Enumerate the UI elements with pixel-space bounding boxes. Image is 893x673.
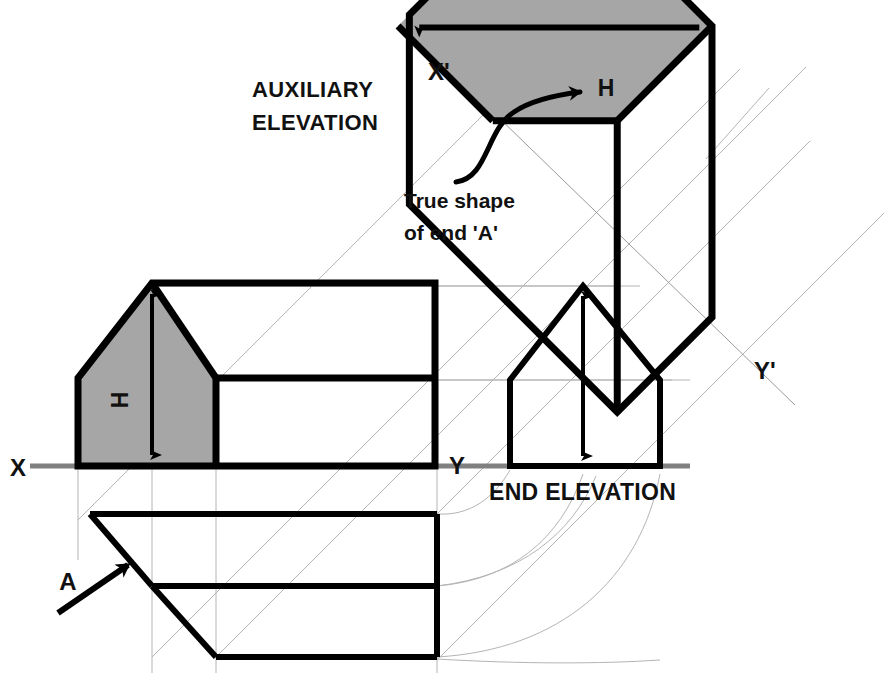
auxiliary-height-label: H [598, 75, 615, 101]
projector-line [216, 67, 806, 657]
front-elevation-shaded-gable [78, 283, 216, 466]
axis-label-x: X [10, 454, 26, 481]
plan-view-group [90, 514, 437, 657]
front-elevation-group: H [78, 283, 435, 466]
true-shape-note-line2: of end 'A' [404, 221, 498, 244]
projector-arc [437, 659, 660, 663]
axis-label-y: Y [449, 452, 465, 479]
end-elevation-title: END ELEVATION [489, 479, 676, 505]
direction-arrow-label: A [59, 568, 76, 595]
front-elevation-height-label: H [107, 392, 133, 409]
axis-label-y-prime: Y' [754, 357, 776, 384]
auxiliary-elevation-group [315, 0, 858, 412]
technical-drawing-canvas: H A [0, 0, 893, 673]
xy-prime-reference-line [462, 82, 795, 405]
true-shape-note-line1: True shape [404, 189, 515, 212]
projector-line [152, 69, 740, 657]
auxiliary-elevation-title-line2: ELEVATION [252, 110, 378, 135]
plan-hip-lower [152, 586, 216, 657]
orthographic-projection-svg: H A [0, 0, 893, 673]
auxiliary-elevation-title-line1: AUXILIARY [252, 77, 373, 102]
plan-hip-upper [90, 514, 152, 586]
axis-label-x-prime: X' [428, 58, 450, 85]
